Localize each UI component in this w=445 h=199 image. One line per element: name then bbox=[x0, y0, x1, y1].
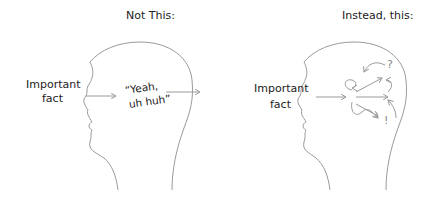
figure-eight-arrow bbox=[352, 102, 378, 118]
loop-arrow bbox=[345, 80, 356, 90]
back-curve-arrow bbox=[388, 100, 396, 118]
exclamation-mark: ! bbox=[384, 114, 388, 127]
right-title: Instead, this: bbox=[342, 9, 414, 22]
chaotic-thought-arrows bbox=[345, 63, 396, 118]
top-curve-arrow bbox=[364, 63, 385, 72]
question-mark: ? bbox=[387, 58, 393, 71]
diagram-canvas bbox=[0, 0, 445, 199]
left-title: Not This: bbox=[126, 9, 175, 22]
right-input-label-line1: Important bbox=[254, 82, 309, 95]
left-head-outline bbox=[84, 42, 193, 190]
curl-up-arrow bbox=[386, 80, 392, 92]
left-input-label-line2: fact bbox=[42, 92, 63, 105]
right-input-label-line2: fact bbox=[270, 98, 291, 111]
up-right-arrow bbox=[356, 78, 382, 92]
left-input-label-line1: Important bbox=[26, 78, 81, 91]
